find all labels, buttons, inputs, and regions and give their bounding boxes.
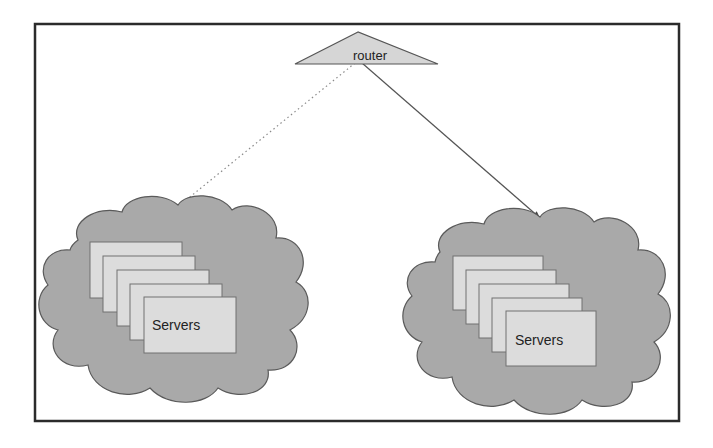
router-label: router — [353, 48, 388, 63]
network-diagram: router Servers Servers — [0, 0, 713, 448]
right-servers-label: Servers — [515, 332, 563, 348]
left-servers-label: Servers — [152, 317, 200, 333]
